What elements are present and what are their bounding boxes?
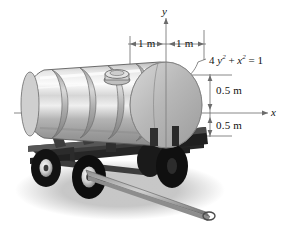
arrow-up-upper: [208, 75, 213, 81]
dimension-label-left-1m: 1 m: [138, 37, 155, 49]
figure-tanker-trailer: y x 1 m 1 m 0.5 m 0.5 m 4 y2 + x2 = 1: [0, 0, 287, 231]
x-axis-label: x: [271, 106, 276, 118]
arrow-x-axis: [262, 111, 268, 116]
dimension-label-right-1m: 1 m: [176, 37, 193, 49]
arrow-y-axis: [164, 18, 169, 24]
ellipse-equation-label: 4 y2 + x2 = 1: [209, 53, 263, 66]
arrow-right-of-left-1m: [157, 42, 163, 47]
equation-rhs: 1: [257, 54, 263, 66]
top-hatch: [104, 70, 130, 85]
arrow-right-1m: [198, 42, 204, 47]
dimension-label-lower-05m: 0.5 m: [216, 119, 242, 131]
y-axis-label: y: [162, 5, 167, 17]
figure-canvas: [0, 0, 287, 231]
arrow-down-lower: [208, 130, 213, 136]
arrow-left-of-right-1m: [169, 42, 175, 47]
dimension-label-upper-05m: 0.5 m: [216, 84, 242, 96]
arrow-up-lower: [208, 117, 213, 123]
tank-end-face: [130, 62, 202, 148]
arrow-left-1m: [130, 42, 136, 47]
arrow-down-upper: [208, 104, 213, 110]
